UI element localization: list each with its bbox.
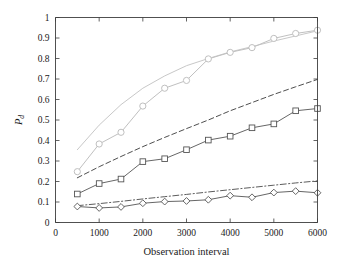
x-tick-label: 6000: [308, 228, 327, 238]
y-tick-label: 0: [45, 218, 50, 228]
marker-square: [118, 176, 124, 182]
marker-square: [162, 156, 168, 162]
marker-circle: [118, 129, 124, 135]
y-tick-label: 0.5: [38, 115, 50, 125]
marker-square: [206, 137, 212, 143]
y-tick-label: 0.4: [38, 136, 50, 146]
x-tick-label: 3000: [177, 228, 196, 238]
y-tick-label: 0.3: [38, 156, 50, 166]
x-tick-label: 2000: [133, 228, 152, 238]
y-tick-label: 0.1: [38, 197, 50, 207]
x-axis-title: Observation interval: [143, 246, 229, 257]
marker-square: [140, 159, 146, 165]
x-tick-label: 4000: [221, 228, 240, 238]
y-tick-label: 0.6: [38, 95, 50, 105]
chart-container: 010002000300040005000600000.10.20.30.40.…: [0, 0, 341, 267]
y-tick-label: 0.8: [38, 54, 50, 64]
x-tick-label: 5000: [264, 228, 283, 238]
x-tick-label: 0: [53, 228, 58, 238]
marker-square: [271, 121, 277, 127]
y-tick-label: 1: [45, 13, 50, 23]
marker-circle: [293, 30, 299, 36]
marker-circle: [183, 77, 189, 83]
y-tick-label: 0.2: [38, 177, 50, 187]
marker-square: [75, 191, 81, 197]
marker-circle: [249, 45, 255, 51]
chart-background: [0, 0, 341, 267]
y-tick-label: 0.7: [38, 74, 50, 84]
x-tick-label: 1000: [90, 228, 109, 238]
marker-circle: [96, 141, 102, 147]
marker-circle: [227, 49, 233, 55]
marker-circle: [271, 35, 277, 41]
y-tick-label: 0.9: [38, 33, 50, 43]
marker-square: [249, 125, 255, 131]
marker-square: [227, 133, 233, 139]
marker-circle: [205, 56, 211, 62]
marker-square: [184, 147, 190, 153]
marker-circle: [162, 85, 168, 91]
marker-square: [293, 108, 299, 114]
marker-circle: [74, 169, 80, 175]
marker-square: [96, 181, 102, 187]
pd-vs-observation-interval-chart: 010002000300040005000600000.10.20.30.40.…: [0, 0, 341, 267]
marker-circle: [140, 103, 146, 109]
